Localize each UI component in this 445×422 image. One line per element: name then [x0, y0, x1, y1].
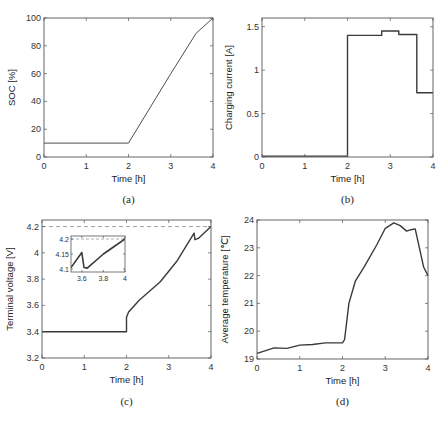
x-tick-label: 1	[302, 161, 307, 171]
y-tick-label: 4.2	[26, 222, 39, 232]
y-tick-label: 19	[244, 354, 254, 364]
y-tick-label: 4	[34, 248, 39, 258]
y-axis-label: Charging current [A]	[223, 45, 234, 130]
x-tick-label: 2	[345, 161, 350, 171]
x-tick-label: 0	[259, 161, 264, 171]
panel-caption: (d)	[336, 395, 349, 408]
y-tick-label: 22	[244, 271, 254, 281]
x-tick-label: 4	[425, 363, 430, 373]
y-tick-label: 40	[31, 96, 41, 106]
x-tick-label: 3.8	[99, 275, 109, 282]
x-tick-label: 4	[208, 362, 213, 372]
y-tick-label: 100	[26, 13, 41, 23]
y-tick-label: 23	[244, 243, 254, 253]
y-tick-label: 21	[244, 298, 254, 308]
y-tick-label: 3.6	[26, 300, 39, 310]
x-tick-label: 4	[430, 161, 435, 171]
figure: 01234020406080100Time [h]SOC [%](a)01234…	[0, 0, 445, 422]
x-tick-label: 3	[168, 161, 173, 171]
chart-panel-a: 01234020406080100Time [h]SOC [%](a)	[6, 13, 216, 206]
series-line	[44, 18, 213, 143]
y-tick-label: 1	[254, 65, 259, 75]
x-tick-label: 4	[123, 275, 127, 282]
axes-frame	[44, 18, 213, 157]
x-tick-label: 1	[84, 161, 89, 171]
y-tick-label: 4.15	[55, 251, 69, 258]
panel-caption: (b)	[341, 193, 354, 206]
panel-caption: (a)	[122, 193, 135, 206]
y-tick-label: 60	[31, 69, 41, 79]
x-axis-label: Time [h]	[110, 374, 144, 385]
y-tick-label: 0.5	[246, 109, 259, 119]
x-tick-label: 2	[340, 363, 345, 373]
x-tick-label: 0	[39, 362, 44, 372]
chart-panel-d: 01234192021222324Time [h]Average tempera…	[219, 215, 431, 408]
axes-frame	[257, 220, 428, 359]
x-tick-label: 2	[124, 362, 129, 372]
y-tick-label: 24	[244, 215, 254, 225]
x-tick-label: 3	[388, 161, 393, 171]
series-line	[262, 31, 433, 156]
y-tick-label: 3.8	[26, 274, 39, 284]
chart-panel-c: 012343.23.43.63.844.2Time [h]Terminal vo…	[4, 220, 214, 408]
y-tick-label: 80	[31, 41, 41, 51]
x-tick-label: 0	[41, 161, 46, 171]
y-tick-label: 4.1	[59, 266, 69, 273]
y-tick-label: 20	[31, 124, 41, 134]
x-tick-label: 4	[210, 161, 215, 171]
y-axis-label: SOC [%]	[6, 69, 17, 106]
y-axis-label: Terminal voltage [V]	[4, 247, 15, 330]
y-axis-label: Average temperature [℃]	[219, 236, 230, 344]
x-axis-label: Time [h]	[331, 173, 365, 184]
x-tick-label: 3	[383, 363, 388, 373]
x-tick-label: 1	[297, 363, 302, 373]
y-tick-label: 1.5	[246, 22, 259, 32]
x-tick-label: 3.6	[77, 275, 87, 282]
y-tick-label: 3.4	[26, 327, 39, 337]
y-tick-label: 0	[254, 152, 259, 162]
x-tick-label: 3	[166, 362, 171, 372]
x-axis-label: Time [h]	[112, 173, 146, 184]
x-axis-label: Time [h]	[326, 375, 360, 386]
inset-chart: 3.63.844.14.154.2	[55, 236, 127, 282]
x-tick-label: 2	[126, 161, 131, 171]
chart-panel-b: 0123400.511.5Time [h]Charging current [A…	[223, 18, 436, 206]
x-tick-label: 0	[254, 363, 259, 373]
panel-caption: (c)	[120, 395, 133, 408]
y-tick-label: 0	[36, 152, 41, 162]
y-tick-label: 20	[244, 326, 254, 336]
x-tick-label: 1	[82, 362, 87, 372]
series-line	[257, 223, 428, 354]
y-tick-label: 4.2	[59, 236, 69, 243]
y-tick-label: 3.2	[26, 353, 39, 363]
